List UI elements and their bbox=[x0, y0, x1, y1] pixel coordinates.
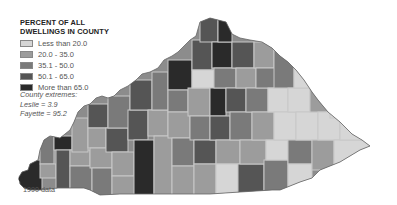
data-year-footnote: 1990 data bbox=[23, 185, 55, 194]
kentucky-choropleth-map bbox=[0, 0, 397, 205]
